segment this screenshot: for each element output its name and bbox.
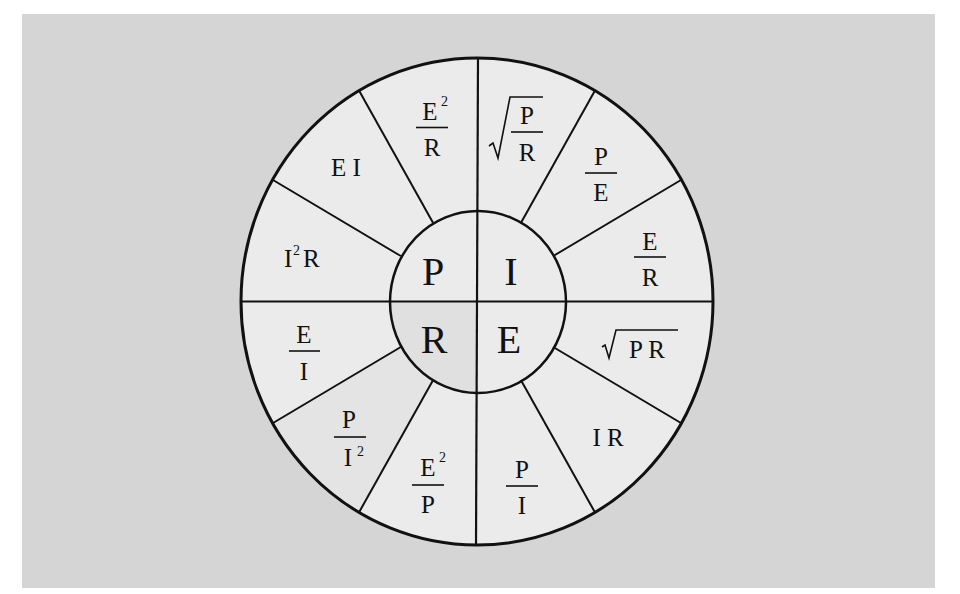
pe-numerator: P [594, 143, 608, 170]
center-letter-i: I [504, 249, 517, 294]
pi2-denominator: I [344, 444, 352, 471]
pe-denominator: E [593, 179, 608, 206]
ei-numerator: E [296, 321, 311, 348]
pi2-numerator: P [342, 406, 356, 433]
i2r-base: I [284, 245, 292, 272]
e2p-exponent: 2 [439, 450, 446, 465]
pi-numerator: P [515, 456, 529, 483]
e2r-exponent: 2 [441, 94, 448, 109]
sqrt-pr-numerator: P [520, 102, 534, 129]
e2p-numerator: E [420, 454, 435, 481]
e2p-denominator: P [421, 491, 435, 518]
e2r-denominator: R [424, 134, 441, 161]
pi2-exponent: 2 [357, 444, 364, 459]
ei-denominator: I [300, 358, 308, 385]
center-letter-e: E [497, 317, 521, 362]
sqrt-pr-denominator: R [519, 139, 536, 166]
i2r-exponent: 2 [293, 243, 300, 258]
er-numerator: E [642, 228, 657, 255]
center-letter-r: R [421, 317, 448, 362]
e2r-numerator: E [422, 98, 437, 125]
sqrt-pr-text: P R [629, 336, 665, 363]
formula-ir: I R [592, 424, 624, 451]
center-letter-p: P [422, 249, 444, 294]
i2r-rest: R [303, 245, 320, 272]
pie-formula-wheel: P I R E I 2 R E I E 2 R P R P E E R P R [0, 0, 960, 594]
er-denominator: R [642, 264, 659, 291]
pi-denominator: I [518, 492, 526, 519]
formula-ei: E I [331, 154, 361, 181]
